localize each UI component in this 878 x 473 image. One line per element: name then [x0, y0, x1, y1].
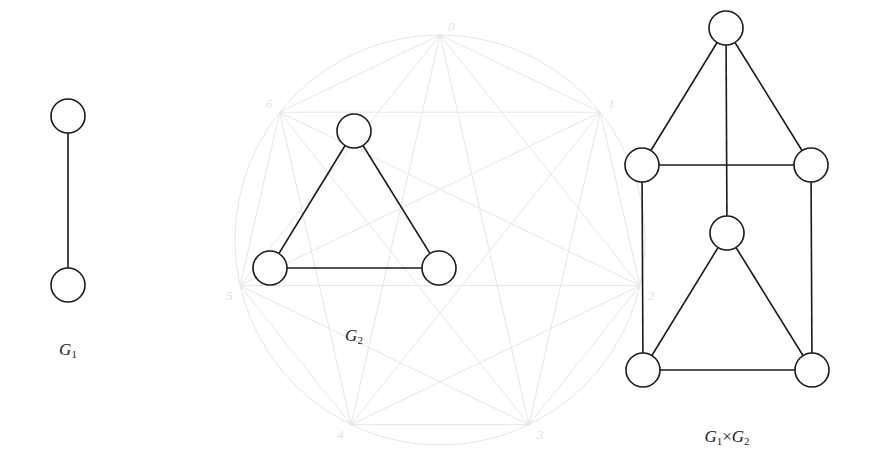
ghost-edge	[240, 35, 440, 286]
graph-vertex	[337, 114, 371, 148]
ghost-edge	[529, 286, 640, 425]
ghost-label: 4	[337, 427, 344, 442]
graph-edge	[642, 165, 643, 370]
ghost-edge	[440, 35, 640, 286]
graph-g2	[253, 114, 456, 285]
ghost-edge	[440, 35, 529, 425]
ghost-edge	[440, 35, 600, 112]
faint-background-heptagon: 0123456	[226, 19, 655, 445]
graph-vertex	[253, 251, 287, 285]
graph-edge	[270, 131, 354, 268]
graph-vertex	[625, 148, 659, 182]
graph-vertex	[794, 148, 828, 182]
label-g1-times-g2: G1×G2	[704, 427, 749, 447]
graph-vertex	[422, 251, 456, 285]
label-g1: G1	[59, 340, 77, 360]
ghost-edge	[280, 35, 440, 112]
ghost-edge	[351, 286, 640, 425]
graph-edge	[726, 28, 811, 165]
ghost-label: 2	[648, 288, 655, 303]
graph-vertex	[709, 11, 743, 45]
ghost-edge	[240, 286, 351, 425]
graph-edge	[643, 233, 727, 370]
graph-vertex	[51, 99, 85, 133]
ghost-label: 6	[266, 96, 273, 111]
ghost-label: 1	[608, 96, 615, 111]
ghost-label: 5	[226, 288, 233, 303]
ghost-edge	[600, 112, 640, 285]
graph-vertex	[795, 353, 829, 387]
ghost-edge	[240, 112, 600, 285]
ghost-edge	[280, 112, 640, 285]
ghost-edge	[240, 286, 529, 425]
graph-edge	[726, 28, 727, 233]
ghost-label: 3	[536, 427, 544, 442]
graph-vertex	[51, 268, 85, 302]
ghost-edge	[529, 112, 600, 425]
graph-vertex	[626, 353, 660, 387]
label-g2: G2	[345, 326, 363, 346]
diagram-canvas: 0123456	[0, 0, 878, 473]
graph-g1	[51, 99, 85, 302]
graph-edge	[811, 165, 812, 370]
graph-product-g1xg2	[625, 11, 829, 387]
ghost-edge	[351, 35, 440, 425]
graph-edge	[642, 28, 726, 165]
ghost-label: 0	[448, 19, 455, 34]
graph-edge	[354, 131, 439, 268]
graph-edge	[727, 233, 812, 370]
graph-vertex	[710, 216, 744, 250]
